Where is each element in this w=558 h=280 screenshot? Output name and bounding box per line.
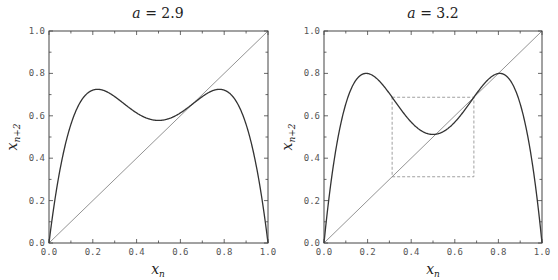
diagonal-line bbox=[49, 31, 268, 243]
x-axis-label: xn bbox=[426, 261, 440, 279]
figure: a = 2.9 0.00.20.40.60.81.00.00.20.40.60.… bbox=[0, 0, 558, 280]
y-tick-label: 0.0 bbox=[304, 238, 320, 248]
y-axis-label: xn+2 bbox=[279, 123, 297, 150]
x-tick-label: 1.0 bbox=[534, 247, 550, 257]
diagonal-line bbox=[324, 31, 542, 243]
y-tick-label: 1.0 bbox=[304, 26, 320, 36]
y-tick-label: 0.2 bbox=[29, 196, 45, 206]
plot-panel-a-3-2: a = 3.2 0.00.20.40.60.81.00.00.20.40.60.… bbox=[279, 5, 550, 279]
plot-area: 0.00.20.40.60.81.00.00.20.40.60.81.0 bbox=[29, 26, 276, 257]
plot-area: 0.00.20.40.60.81.00.00.20.40.60.81.0 bbox=[304, 26, 550, 257]
y-tick-label: 0.4 bbox=[304, 153, 320, 163]
x-axis-label: xn bbox=[151, 261, 165, 279]
x-tick-label: 0.2 bbox=[85, 247, 101, 257]
y-tick-label: 0.6 bbox=[304, 111, 320, 121]
y-tick-label: 1.0 bbox=[29, 26, 45, 36]
x-tick-label: 0.0 bbox=[316, 247, 332, 257]
x-tick-label: 1.0 bbox=[260, 247, 276, 257]
x-tick-label: 0.8 bbox=[216, 247, 232, 257]
second-iterate-curve bbox=[324, 73, 542, 243]
y-tick-label: 0.4 bbox=[29, 153, 45, 163]
x-tick-label: 0.2 bbox=[359, 247, 375, 257]
x-tick-label: 0.4 bbox=[128, 247, 144, 257]
y-tick-label: 0.2 bbox=[304, 196, 320, 206]
x-tick-label: 0.8 bbox=[490, 247, 506, 257]
x-tick-label: 0.4 bbox=[403, 247, 419, 257]
plot-panel-a-2-9: a = 2.9 0.00.20.40.60.81.00.00.20.40.60.… bbox=[4, 5, 276, 279]
y-axis-label: xn+2 bbox=[4, 123, 22, 150]
panel-title: a = 3.2 bbox=[407, 5, 458, 21]
y-tick-label: 0.8 bbox=[304, 68, 320, 78]
x-tick-label: 0.6 bbox=[172, 247, 188, 257]
y-tick-label: 0.8 bbox=[29, 68, 45, 78]
x-tick-label: 0.0 bbox=[41, 247, 57, 257]
second-iterate-curve bbox=[49, 89, 268, 243]
y-tick-label: 0.6 bbox=[29, 111, 45, 121]
x-tick-label: 0.6 bbox=[447, 247, 463, 257]
panel-title: a = 2.9 bbox=[132, 5, 183, 21]
y-tick-label: 0.0 bbox=[29, 238, 45, 248]
